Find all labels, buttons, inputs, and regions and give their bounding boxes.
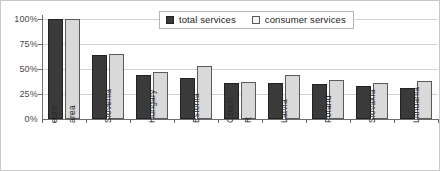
x-axis-label: area [67,105,77,123]
x-axis-label-cell: CzechR [218,122,262,170]
x-axis-label: Poland [323,95,333,123]
y-tick-label: 0% [25,114,38,124]
consumer-services-swatch [252,16,260,24]
bar-group [42,19,86,119]
legend-label: total services [179,14,236,25]
x-axis-label-cell: Lithuania [394,122,438,170]
legend-label: consumer services [265,14,346,25]
x-axis-label-cell: Estonia [174,122,218,170]
x-axis-label: Latvia [279,99,289,123]
x-axis-label-cell: Poland [306,122,350,170]
x-axis-label-cell: Slovakia [350,122,394,170]
plot-area [42,19,438,119]
chart-legend: total services consumer services [159,11,354,29]
x-axis-label-cell: euroarea [42,122,86,170]
x-axis-label-cell: Latvia [262,122,306,170]
x-axis-label: Hungary [147,89,157,123]
x-axis-label: R [243,117,253,123]
y-tick-label: 100% [14,14,38,24]
y-tick-label: 75% [19,39,38,49]
y-tick-label: 25% [19,89,38,99]
bar-consumer-services [65,19,80,119]
x-axis-labels: euroareaSloveniaHungaryEstoniaCzechRLatv… [42,122,438,170]
bar-total-services [48,19,63,119]
x-axis-line [42,119,438,120]
x-axis-label: euro [49,105,59,123]
y-axis-labels: 100% 75% 50% 25% 0% [1,19,38,119]
bar-groups [42,19,438,119]
x-axis-label-cell: Hungary [130,122,174,170]
legend-item-consumer-services: consumer services [252,14,346,25]
y-tick-label: 50% [19,64,38,74]
x-axis-label: Lithuania [411,87,421,123]
legend-item-total-services: total services [166,14,236,25]
bar-consumer-services [241,82,256,119]
total-services-swatch [166,16,174,24]
x-axis-label-cell: Slovenia [86,122,130,170]
x-axis-label: Slovakia [367,89,377,123]
x-axis-label: Estonia [191,93,201,123]
x-tick-mark [438,119,439,123]
x-axis-label: Slovenia [103,89,113,123]
x-axis-label: Czech [225,98,235,123]
bar-chart: 100% 75% 50% 25% 0% euroareaSloveniaHung… [0,0,440,171]
